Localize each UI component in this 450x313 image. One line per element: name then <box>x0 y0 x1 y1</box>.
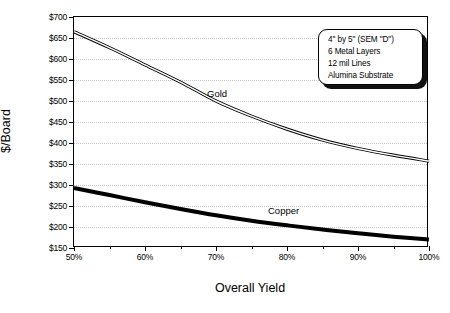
y-tick-label: $550 <box>49 75 67 85</box>
x-tick <box>429 246 430 251</box>
y-tick-label: $600 <box>49 54 67 64</box>
y-tick-label: $300 <box>49 180 67 190</box>
series-label-copper: Copper <box>268 205 299 216</box>
chart-figure: $/Board Overall Yield $700$650$600$550$5… <box>0 0 450 313</box>
x-tick-label: 100% <box>419 252 440 262</box>
x-tick-label: 80% <box>279 252 295 262</box>
x-axis-title: Overall Yield <box>215 281 285 295</box>
series-label-gold: Gold <box>207 88 227 99</box>
x-tick-label: 90% <box>350 252 366 262</box>
callout-line-1: 4" by 5" (SEM "D") <box>328 34 422 46</box>
y-tick-label: $400 <box>49 138 67 148</box>
y-tick-label: $250 <box>49 201 67 211</box>
y-tick-label: $350 <box>49 159 67 169</box>
callout-line-2: 6 Metal Layers <box>328 46 422 58</box>
y-tick-label: $650 <box>49 33 67 43</box>
y-tick-label: $500 <box>49 96 67 106</box>
y-tick-label: $200 <box>49 222 67 232</box>
y-tick-label: $700 <box>49 12 67 22</box>
x-tick-label: 50% <box>66 252 82 262</box>
callout-line-4: Alumina Substrate <box>328 70 422 82</box>
x-tick-label: 70% <box>208 252 224 262</box>
y-tick-label: $150 <box>49 243 67 253</box>
series-line-copper <box>74 188 429 240</box>
y-tick-label: $450 <box>49 117 67 127</box>
y-axis-title: $/Board <box>0 109 13 153</box>
callout-line-3: 12 mil Lines <box>328 58 422 70</box>
x-tick-label: 60% <box>137 252 153 262</box>
spec-callout: 4" by 5" (SEM "D") 6 Metal Layers 12 mil… <box>318 29 423 85</box>
